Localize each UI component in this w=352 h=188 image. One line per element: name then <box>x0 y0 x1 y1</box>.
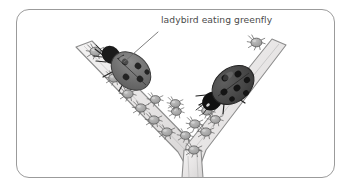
biology-illustration <box>0 0 352 188</box>
figure-root: ladybird eating greenfly <box>0 0 352 188</box>
annotation-label: ladybird eating greenfly <box>161 14 291 25</box>
